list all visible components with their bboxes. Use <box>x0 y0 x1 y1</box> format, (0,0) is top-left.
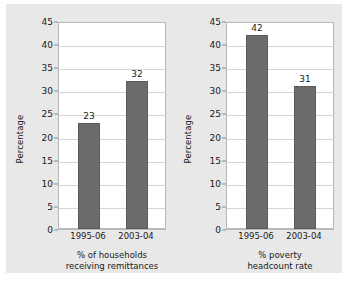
gridline <box>227 46 333 47</box>
y-axis-label-right: Percentage <box>183 114 193 163</box>
gridline <box>59 139 165 140</box>
caption-line: headcount rate <box>220 261 340 272</box>
gridline <box>59 46 165 47</box>
y-tick-label: 40 <box>42 41 53 50</box>
bar-value-label: 32 <box>117 70 157 79</box>
gridline <box>227 185 333 186</box>
category-label: 1995-06 <box>229 232 283 241</box>
y-tick-label: 45 <box>42 18 53 27</box>
plot-area-right: 4231 <box>226 22 334 230</box>
bar-value-label: 42 <box>237 24 277 33</box>
chart-caption-right: % poverty headcount rate <box>220 250 340 271</box>
y-tick-label: 15 <box>42 156 53 165</box>
gridline <box>227 115 333 116</box>
y-tick-label: 30 <box>42 87 53 96</box>
bar <box>78 123 100 229</box>
y-tick-label: 15 <box>210 156 221 165</box>
category-label: 2003-04 <box>109 232 163 241</box>
caption-line: % of households <box>52 250 172 261</box>
y-tick-label: 30 <box>210 87 221 96</box>
caption-line: % poverty <box>220 250 340 261</box>
chart-panel-poverty: Percentage 051015202530354045 4231 1995-… <box>174 4 342 273</box>
x-axis-baseline-left <box>59 228 165 229</box>
y-axis-ticks-left: 051015202530354045 <box>28 22 58 230</box>
x-axis-categories-left: 1995-06 2003-04 <box>58 232 166 248</box>
gridline <box>227 162 333 163</box>
y-tick-label: 25 <box>210 110 221 119</box>
gridline <box>59 162 165 163</box>
bar <box>294 86 316 229</box>
gridline <box>227 92 333 93</box>
category-label: 1995-06 <box>61 232 115 241</box>
y-tick-label: 25 <box>42 110 53 119</box>
y-tick-label: 10 <box>42 179 53 188</box>
bar <box>246 35 268 229</box>
y-tick-label: 10 <box>210 179 221 188</box>
y-axis-ticks-right: 051015202530354045 <box>196 22 226 230</box>
y-axis-label-left: Percentage <box>15 114 25 163</box>
y-tick-label: 0 <box>215 226 221 235</box>
bar-value-label: 23 <box>69 112 109 121</box>
gridline <box>59 92 165 93</box>
y-tick-label: 40 <box>210 41 221 50</box>
gridline <box>59 185 165 186</box>
y-tick-label: 0 <box>47 226 53 235</box>
chart-caption-left: % of households receiving remittances <box>52 250 172 271</box>
y-tick-label: 20 <box>210 133 221 142</box>
plot-area-left: 2332 <box>58 22 166 230</box>
y-tick-label: 35 <box>210 64 221 73</box>
y-tick-label: 5 <box>47 202 53 211</box>
x-axis-baseline-right <box>227 228 333 229</box>
gridline <box>227 139 333 140</box>
gridline <box>227 208 333 209</box>
y-tick-label: 5 <box>215 202 221 211</box>
caption-line: receiving remittances <box>52 261 172 272</box>
y-tick-label: 35 <box>42 64 53 73</box>
figure-panel: Percentage 051015202530354045 2332 1995-… <box>6 4 342 273</box>
gridline <box>59 208 165 209</box>
x-axis-categories-right: 1995-06 2003-04 <box>226 232 334 248</box>
y-tick-label: 20 <box>42 133 53 142</box>
category-label: 2003-04 <box>277 232 331 241</box>
bar-value-label: 31 <box>285 75 325 84</box>
y-tick-label: 45 <box>210 18 221 27</box>
bar <box>126 81 148 229</box>
gridline <box>227 69 333 70</box>
chart-panels: Percentage 051015202530354045 2332 1995-… <box>6 4 342 273</box>
chart-panel-households: Percentage 051015202530354045 2332 1995-… <box>6 4 174 273</box>
